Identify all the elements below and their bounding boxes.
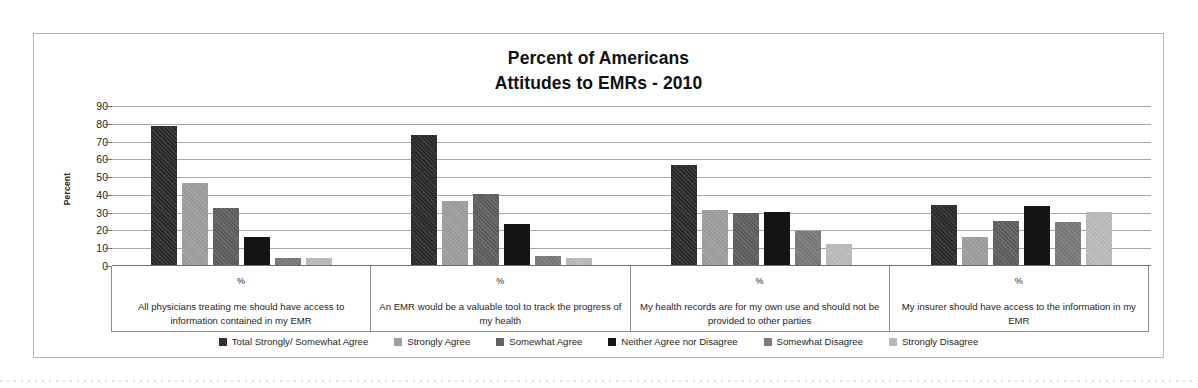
bar-group-1 bbox=[112, 106, 372, 265]
category-cell-1: %All physicians treating me should have … bbox=[111, 266, 371, 332]
legend-item-1[interactable]: Total Strongly/ Somewhat Agree bbox=[219, 336, 369, 347]
tickmark-70 bbox=[105, 142, 112, 143]
chart-title: Percent of Americans Attitudes to EMRs -… bbox=[34, 46, 1163, 97]
bar-g4-s5[interactable] bbox=[1055, 222, 1081, 265]
bar-group-3 bbox=[632, 106, 892, 265]
legend-label-5: Somewhat Disagree bbox=[777, 336, 863, 347]
tickmark-10 bbox=[105, 248, 112, 249]
category-label-1: All physicians treating me should have a… bbox=[120, 300, 362, 328]
legend-item-5[interactable]: Somewhat Disagree bbox=[764, 336, 863, 347]
legend-swatch-icon-3 bbox=[496, 338, 504, 346]
legend-item-2[interactable]: Strongly Agree bbox=[394, 336, 470, 347]
bar-g3-s4[interactable] bbox=[764, 212, 790, 265]
bar-g2-s1[interactable] bbox=[411, 135, 437, 265]
legend-label-2: Strongly Agree bbox=[407, 336, 470, 347]
bar-g1-s5[interactable] bbox=[275, 258, 301, 265]
category-label-2: An EMR would be a valuable tool to track… bbox=[379, 300, 621, 328]
bar-group-4 bbox=[891, 106, 1151, 265]
bar-g2-s5[interactable] bbox=[535, 256, 561, 265]
bar-g1-s2[interactable] bbox=[182, 183, 208, 265]
chart-container: Percent of Americans Attitudes to EMRs -… bbox=[33, 33, 1164, 358]
bar-g1-s3[interactable] bbox=[213, 208, 239, 265]
bar-g4-s1[interactable] bbox=[931, 205, 957, 265]
legend-label-1: Total Strongly/ Somewhat Agree bbox=[232, 336, 369, 347]
plot-grid bbox=[112, 106, 1151, 266]
bar-groups bbox=[112, 106, 1151, 265]
legend-item-3[interactable]: Somewhat Agree bbox=[496, 336, 582, 347]
legend-swatch-icon-2 bbox=[394, 338, 402, 346]
tickmark-80 bbox=[105, 124, 112, 125]
bar-g3-s2[interactable] bbox=[702, 210, 728, 265]
bar-g3-s3[interactable] bbox=[733, 213, 759, 265]
bar-g1-s1[interactable] bbox=[151, 126, 177, 265]
bar-g4-s4[interactable] bbox=[1024, 206, 1050, 265]
legend-item-4[interactable]: Neither Agree nor Disagree bbox=[608, 336, 737, 347]
tickmark-90 bbox=[105, 106, 112, 107]
tickmark-60 bbox=[105, 159, 112, 160]
bar-g2-s3[interactable] bbox=[473, 194, 499, 265]
scan-edge-artifact bbox=[0, 380, 1198, 382]
chart-title-line-1: Percent of Americans bbox=[34, 46, 1163, 71]
bar-g4-s3[interactable] bbox=[993, 221, 1019, 265]
bar-g1-s4[interactable] bbox=[244, 237, 270, 265]
category-unit-3: % bbox=[756, 276, 764, 286]
bar-group-2 bbox=[372, 106, 632, 265]
category-cell-4: %My insurer should have access to the in… bbox=[889, 266, 1149, 332]
tickmark-30 bbox=[105, 213, 112, 214]
bar-g2-s4[interactable] bbox=[504, 224, 530, 265]
bar-g2-s6[interactable] bbox=[566, 258, 592, 265]
category-label-4: My insurer should have access to the inf… bbox=[898, 300, 1140, 328]
bar-g4-s2[interactable] bbox=[962, 237, 988, 265]
bar-g2-s2[interactable] bbox=[442, 201, 468, 265]
tickmark-40 bbox=[105, 195, 112, 196]
chart-title-line-2: Attitudes to EMRs - 2010 bbox=[34, 71, 1163, 96]
bar-g1-s6[interactable] bbox=[306, 258, 332, 265]
legend-label-4: Neither Agree nor Disagree bbox=[621, 336, 737, 347]
category-cell-3: %My health records are for my own use an… bbox=[630, 266, 890, 332]
legend-item-6[interactable]: Strongly Disagree bbox=[889, 336, 978, 347]
chart-legend: Total Strongly/ Somewhat AgreeStrongly A… bbox=[34, 336, 1163, 347]
legend-swatch-icon-6 bbox=[889, 338, 897, 346]
category-label-3: My health records are for my own use and… bbox=[639, 300, 881, 328]
bar-g3-s1[interactable] bbox=[671, 165, 697, 265]
category-unit-2: % bbox=[496, 276, 504, 286]
tickmark-20 bbox=[105, 230, 112, 231]
tickmark-50 bbox=[105, 177, 112, 178]
legend-swatch-icon-5 bbox=[764, 338, 772, 346]
y-axis-tick-labels: 9080706050403020100 bbox=[78, 106, 108, 266]
legend-swatch-icon-4 bbox=[608, 338, 616, 346]
bar-g3-s5[interactable] bbox=[795, 231, 821, 265]
bar-g4-s6[interactable] bbox=[1086, 212, 1112, 265]
legend-label-6: Strongly Disagree bbox=[902, 336, 978, 347]
legend-swatch-icon-1 bbox=[219, 338, 227, 346]
y-axis-title: Percent bbox=[62, 154, 72, 224]
bar-g3-s6[interactable] bbox=[826, 244, 852, 265]
category-unit-1: % bbox=[237, 276, 245, 286]
category-cell-2: %An EMR would be a valuable tool to trac… bbox=[370, 266, 630, 332]
legend-label-3: Somewhat Agree bbox=[509, 336, 582, 347]
plot-area: Percent 9080706050403020100 bbox=[34, 106, 1165, 286]
category-label-row: %All physicians treating me should have … bbox=[112, 266, 1149, 332]
category-unit-4: % bbox=[1015, 276, 1023, 286]
